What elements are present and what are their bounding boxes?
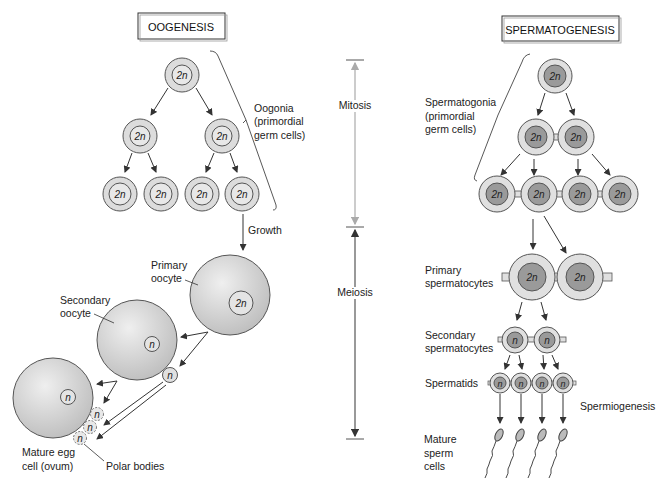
spermatogonium-cell: 2n (479, 176, 515, 212)
svg-text:2n: 2n (573, 272, 586, 283)
svg-text:n: n (512, 335, 518, 346)
spermatogonia-bracket (474, 54, 530, 181)
svg-text:sperm: sperm (424, 447, 453, 459)
svg-text:2n: 2n (613, 189, 626, 200)
spermatid: n (490, 373, 510, 393)
svg-text:2n: 2n (573, 189, 586, 200)
svg-text:spermatocytes: spermatocytes (425, 342, 493, 354)
svg-text:n: n (167, 370, 173, 381)
svg-text:(primordial: (primordial (254, 115, 304, 127)
svg-text:2n: 2n (215, 131, 228, 142)
svg-text:n: n (539, 379, 544, 389)
phase-scale: Mitosis Meiosis (337, 60, 373, 439)
primary-spermatocyte: 2n (509, 254, 555, 300)
svg-text:cells: cells (424, 460, 445, 472)
oogonium-cell: 2n (144, 177, 178, 211)
spermatid: n (511, 373, 531, 393)
sperm-cell (485, 428, 505, 478)
svg-text:Primary: Primary (151, 259, 188, 271)
meiosis-label: Meiosis (337, 286, 373, 298)
svg-text:2n: 2n (548, 71, 561, 82)
mature-egg-cell: n (13, 358, 93, 438)
polar-body: n (163, 368, 178, 383)
svg-text:Spermatogonia: Spermatogonia (425, 96, 496, 108)
svg-text:2n: 2n (234, 298, 247, 309)
svg-text:2n: 2n (175, 70, 188, 81)
gametogenesis-diagram: OOGENESIS 2n 2n 2n 2n (0, 0, 666, 496)
spermatogonium-cell: 2n (558, 119, 594, 155)
oogonium-cell: 2n (103, 177, 137, 211)
svg-text:Mature egg: Mature egg (22, 446, 75, 458)
spermatogonium-cell: 2n (518, 119, 554, 155)
svg-text:germ cells): germ cells) (425, 123, 476, 135)
svg-text:cell (ovum): cell (ovum) (22, 460, 73, 472)
svg-text:n: n (544, 335, 550, 346)
svg-text:n: n (65, 392, 71, 403)
svg-text:Growth: Growth (248, 224, 282, 236)
svg-text:oocyte: oocyte (60, 307, 91, 319)
svg-text:n: n (497, 379, 502, 389)
spermatogonium-cell: 2n (602, 176, 638, 212)
svg-text:2n: 2n (235, 189, 248, 200)
svg-text:n: n (94, 409, 100, 420)
sperm-cell (528, 428, 548, 478)
svg-text:(primordial: (primordial (425, 110, 475, 122)
svg-text:2n: 2n (525, 272, 538, 283)
secondary-oocyte: n (97, 300, 177, 380)
secondary-spermatocyte: n (534, 327, 560, 353)
oogonium-cell: 2n (205, 119, 239, 153)
spermatogonium-cell: 2n (521, 176, 557, 212)
svg-text:germ cells): germ cells) (254, 129, 305, 141)
svg-text:Polar bodies: Polar bodies (106, 460, 164, 472)
svg-text:2n: 2n (490, 189, 503, 200)
svg-text:2n: 2n (195, 189, 208, 200)
svg-text:Secondary: Secondary (425, 329, 476, 341)
sperm-cell (549, 428, 569, 478)
svg-text:spermatocytes: spermatocytes (425, 277, 493, 289)
oogonium-cell: 2n (225, 177, 259, 211)
spermatid: n (532, 373, 552, 393)
spermatogenesis-title: SPERMATOGENESIS (505, 24, 615, 36)
oogonium-cell: 2n (165, 58, 199, 92)
secondary-spermatocyte: n (502, 327, 528, 353)
svg-text:2n: 2n (133, 131, 146, 142)
svg-text:Primary: Primary (425, 264, 462, 276)
svg-text:2n: 2n (569, 132, 582, 143)
svg-text:n: n (518, 379, 523, 389)
svg-text:2n: 2n (532, 189, 545, 200)
svg-text:n: n (560, 379, 565, 389)
spermatogonium-cell: 2n (562, 176, 598, 212)
svg-text:oocyte: oocyte (151, 272, 182, 284)
svg-text:Oogonia: Oogonia (254, 102, 294, 114)
primary-oocyte: 2n (190, 255, 270, 335)
svg-text:2n: 2n (154, 189, 167, 200)
svg-text:Mature: Mature (424, 433, 457, 445)
polar-body: n (91, 408, 104, 421)
oogenesis-title: OOGENESIS (148, 21, 214, 33)
svg-text:Spermiogenesis: Spermiogenesis (580, 400, 655, 412)
oogonium-cell: 2n (185, 177, 219, 211)
spermatogonium-cell: 2n (538, 59, 572, 93)
oogenesis-section: OOGENESIS 2n 2n 2n 2n (13, 13, 305, 472)
spermatid: n (553, 373, 573, 393)
svg-text:n: n (87, 422, 93, 433)
spermatogenesis-section: SPERMATOGENESIS 2n 2n 2n 2n (424, 16, 655, 478)
svg-text:n: n (149, 339, 155, 350)
svg-text:2n: 2n (529, 132, 542, 143)
oogonium-cell: 2n (123, 119, 157, 153)
svg-text:Spermatids: Spermatids (425, 377, 478, 389)
mitosis-label: Mitosis (339, 99, 372, 111)
polar-body: n (84, 421, 97, 434)
polar-body: n (74, 432, 87, 445)
svg-text:2n: 2n (113, 189, 126, 200)
svg-text:Secondary: Secondary (60, 294, 111, 306)
sperm-cell (506, 428, 526, 478)
primary-spermatocyte: 2n (557, 254, 603, 300)
svg-text:n: n (77, 433, 83, 444)
